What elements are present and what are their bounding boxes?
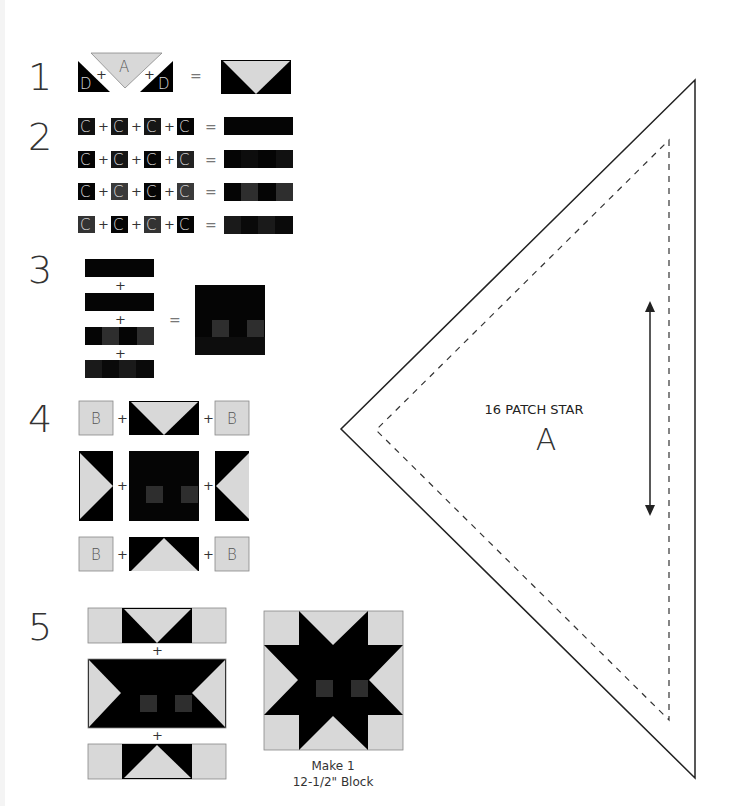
equals-sign: = [190, 68, 202, 84]
equals-sign: = [169, 312, 181, 328]
piece-label-c: C [80, 183, 90, 201]
c-row-1: C + C + C + C = [78, 117, 293, 136]
equals-sign: = [205, 217, 217, 233]
piece-label-b: B [91, 410, 101, 428]
strip-3 [85, 327, 154, 345]
plus-sign: + [164, 119, 175, 134]
piece-label-c: C [113, 183, 123, 201]
plus-sign: + [203, 411, 214, 426]
piece-label-c: C [80, 118, 90, 136]
plus-sign: + [115, 346, 126, 361]
equals-sign: = [205, 152, 217, 168]
plus-sign: + [115, 278, 126, 293]
caption-make-count: Make 1 [311, 759, 354, 773]
caption-block-size: 12-1/2" Block [293, 775, 374, 789]
strip-1 [85, 259, 154, 277]
finished-star-block [264, 611, 403, 750]
strip-result-1 [224, 117, 293, 135]
piece-label-b: B [91, 546, 101, 564]
step-number-1: 1 [28, 55, 52, 99]
sixteen-patch-center [129, 451, 199, 521]
step-4: 4 B + + B + + B + [28, 397, 249, 571]
strip-4 [85, 360, 154, 378]
piece-label-c: C [146, 183, 156, 201]
piece-label-c: C [113, 216, 123, 234]
strip-result-4 [224, 216, 293, 234]
plus-sign: + [96, 67, 107, 82]
plus-sign: + [203, 547, 214, 562]
piece-label-c: C [146, 216, 156, 234]
step-5: 5 + + [28, 605, 403, 789]
strip-result-3 [224, 183, 293, 201]
plus-sign: + [164, 152, 175, 167]
piece-label-c: C [146, 151, 156, 169]
step-1: 1 D + A + D = [28, 53, 291, 99]
equals-sign: = [205, 119, 217, 135]
step-number-2: 2 [28, 115, 52, 159]
strip-2 [85, 293, 154, 311]
step-number-5: 5 [28, 605, 52, 649]
plus-sign: + [131, 152, 142, 167]
template-letter: A [536, 422, 557, 457]
plus-sign: + [117, 411, 128, 426]
flying-geese-unit [221, 60, 291, 94]
c-row-2: C + C + C + C = [78, 150, 293, 169]
flying-geese-left [79, 451, 113, 521]
piece-label-c: C [113, 151, 123, 169]
template-title: 16 PATCH STAR [485, 402, 584, 417]
sixteen-patch-block [195, 285, 265, 355]
plus-sign: + [98, 119, 109, 134]
piece-label-d-right: D [158, 75, 170, 93]
flying-geese-bottom [129, 537, 199, 571]
plus-sign: + [152, 728, 163, 743]
plus-sign: + [115, 312, 126, 327]
piece-label-c: C [179, 118, 189, 136]
step-2: 2 C + C + C + C = C + C + C + [28, 115, 293, 234]
piece-label-b: B [227, 546, 237, 564]
piece-label-d-left: D [80, 75, 92, 93]
c-row-4: C + C + C + C = [78, 216, 293, 234]
plus-sign: + [152, 643, 163, 658]
piece-label-c: C [179, 183, 189, 201]
grainline-arrow-icon [645, 301, 655, 516]
plus-sign: + [98, 184, 109, 199]
piece-label-c: C [179, 216, 189, 234]
c-row-3: C + C + C + C = [78, 183, 293, 201]
plus-sign: + [131, 217, 142, 232]
quilt-instruction-diagram: 1 D + A + D = 2 C + C + C + [0, 0, 730, 806]
plus-sign: + [164, 217, 175, 232]
strip-result-2 [224, 150, 293, 168]
piece-label-c: C [113, 118, 123, 136]
row-strip-middle [88, 659, 226, 728]
piece-label-c: C [179, 151, 189, 169]
plus-sign: + [131, 184, 142, 199]
plus-sign: + [98, 152, 109, 167]
plus-sign: + [117, 547, 128, 562]
step-3: 3 + + + = [28, 248, 265, 378]
piece-label-c: C [80, 151, 90, 169]
plus-sign: + [117, 478, 128, 493]
plus-sign: + [164, 184, 175, 199]
flying-geese-right [215, 451, 249, 521]
flying-geese-top [129, 401, 199, 435]
plus-sign: + [98, 217, 109, 232]
piece-label-a: A [119, 58, 129, 76]
row-strip-top [88, 608, 226, 643]
equals-sign: = [205, 184, 217, 200]
template-sewing-line [376, 140, 669, 720]
step-number-4: 4 [28, 397, 52, 441]
piece-label-c: C [146, 118, 156, 136]
piece-label-b: B [227, 410, 237, 428]
piece-label-c: C [80, 216, 90, 234]
step-number-3: 3 [28, 248, 52, 292]
plus-sign: + [203, 478, 214, 493]
row-strip-bottom [88, 744, 226, 779]
plus-sign: + [131, 119, 142, 134]
